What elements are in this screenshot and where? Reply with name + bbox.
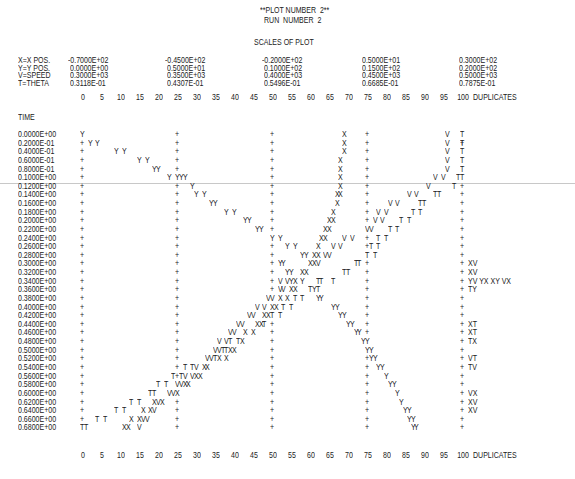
axis-tick-label: 20 [153,451,165,460]
scales-title: SCALES OF PLOT [254,38,314,47]
grid-plus-marker: + [175,423,179,432]
axis-tick-label: 95 [438,93,450,102]
axis-tick-label: 5 [96,93,108,102]
axis-tick-label: 55 [286,93,298,102]
time-row-label: 0.6800E+00 [18,423,56,432]
axis-tick-label: 15 [134,93,146,102]
data-point-y: Y [88,139,93,148]
axis-tick-label: 65 [324,93,336,102]
grid-plus-marker: + [365,423,369,432]
data-point-y: Y [194,190,199,199]
axis-tick-label: 35 [210,451,222,460]
axis-tick-label: 20 [153,93,165,102]
data-point-y: Y [183,173,188,182]
data-point-y: Y [285,242,290,251]
data-point-x: X [251,328,256,337]
data-point-x: X [342,147,347,156]
axis-tick-label: 55 [286,451,298,460]
axis-tick-label: 70 [343,93,355,102]
scale-value: 0.3118E-01 [70,79,106,88]
axis-tick-label: 85 [400,93,412,102]
axis-tick-label: 80 [381,451,393,460]
data-point-t: T [395,225,399,234]
axis-tick-label: 30 [191,451,203,460]
data-point-x: X [160,398,165,407]
data-point-v: V [342,234,347,243]
data-point-t: T [452,182,456,191]
data-point-t: T [84,423,88,432]
axis-tick-label: 0 [77,451,89,460]
data-point-v: V [380,216,385,225]
axis-tick-label: 70 [343,451,355,460]
axis-tick-label: 25 [172,93,184,102]
axis-tick-label: 35 [210,93,222,102]
data-point-t: T [399,216,403,225]
scale-variable-label: T=THETA [18,79,49,88]
data-point-v: V [384,208,389,217]
axis-tick-label: 85 [400,451,412,460]
axis-tick-label: 90 [419,451,431,460]
data-point-y: Y [293,242,298,251]
data-point-y: Y [122,147,127,156]
data-point-y: Y [259,225,264,234]
data-point-x: X [205,363,210,372]
data-point-x: X [240,337,245,346]
data-point-x: X [198,372,203,381]
data-point-x: X [304,268,309,277]
data-point-t: T [331,277,335,286]
axis-tick-label: 60 [305,451,317,460]
axis-tick-label: 50 [267,93,279,102]
data-point-y: Y [137,156,142,165]
data-point-y: Y [145,156,150,165]
scan-line-artifact [0,183,575,184]
data-point-t: T [103,415,107,424]
axis-tick-label: 40 [229,93,241,102]
plot-number-title: **PLOT NUMBER 2** [260,6,329,15]
data-point-y: Y [156,165,161,174]
duplicates-value: TX [468,337,477,346]
data-point-y: Y [213,199,218,208]
run-number-title: RUN NUMBER 2 [264,16,321,25]
duplicates-value: TY [468,285,477,294]
data-point-t: T [262,320,266,329]
data-point-y: Y [247,216,252,225]
data-point-t: T [300,294,304,303]
duplicates-header: DUPLICATES [473,451,517,460]
data-point-t: T [407,216,411,225]
data-point-v: V [338,242,343,251]
data-point-x: X [323,234,328,243]
data-point-t: T [418,208,422,217]
data-point-y: Y [95,139,100,148]
axis-tick-label: 40 [229,451,241,460]
data-point-v: V [152,406,157,415]
duplicates-value: XV [468,406,477,415]
axis-tick-label: 10 [115,93,127,102]
axis-tick-label: 60 [305,93,317,102]
axis-tick-label: 5 [96,451,108,460]
data-point-t: T [346,268,350,277]
axis-tick-label: 75 [362,93,374,102]
axis-tick-label: 95 [438,451,450,460]
data-point-v: V [395,199,400,208]
data-point-x: X [224,354,229,363]
scale-value: 0.6685E-01 [362,79,398,88]
data-point-y: Y [167,173,172,182]
data-point-t: T [357,259,361,268]
grid-plus-marker: + [270,423,274,432]
scale-value: 0.4307E-01 [167,79,203,88]
axis-tick-label: 30 [191,93,203,102]
data-point-t: T [373,251,377,260]
data-point-t: T [437,190,441,199]
data-point-v: V [407,190,412,199]
axis-tick-label: 90 [419,93,431,102]
axis-tick-label: 15 [134,451,146,460]
data-point-v: V [441,173,446,182]
duplicates-header: DUPLICATES [473,93,517,102]
data-point-x: X [186,380,191,389]
duplicates-value: TV [468,363,477,372]
data-point-y: Y [232,208,237,217]
axis-tick-label: 100 [457,93,469,102]
data-point-y: Y [224,208,229,217]
data-point-y: Y [114,147,119,156]
data-point-t: T [129,398,133,407]
